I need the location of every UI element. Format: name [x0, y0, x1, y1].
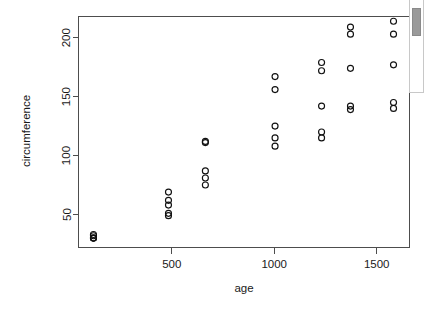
y-tick-label: 100 — [61, 146, 73, 165]
scatter-point — [347, 24, 353, 30]
scatter-plot: 50100150200 50010001500 age circumferenc… — [0, 0, 424, 311]
scatter-point — [202, 168, 208, 174]
scatter-point — [272, 135, 278, 141]
scatter-points-group — [90, 18, 396, 241]
scatter-point — [272, 123, 278, 129]
y-tick-label: 200 — [61, 28, 73, 47]
y-axis-tick-labels: 50100150200 — [61, 28, 73, 221]
x-axis-ticks — [172, 248, 377, 254]
x-tick-label: 1000 — [261, 258, 287, 270]
scatter-point — [202, 182, 208, 188]
scatter-point — [319, 135, 325, 141]
scatter-point — [319, 68, 325, 74]
x-axis-title: age — [234, 282, 253, 294]
scatter-point — [272, 143, 278, 149]
scatter-point — [391, 105, 397, 111]
y-tick-label: 150 — [61, 87, 73, 106]
x-axis-tick-labels: 50010001500 — [162, 258, 389, 270]
r-plot-device: 50100150200 50010001500 age circumferenc… — [0, 0, 424, 311]
plot-frame-box — [79, 17, 410, 248]
scatter-point — [272, 87, 278, 93]
scatter-point — [347, 31, 353, 37]
y-axis-ticks — [73, 38, 79, 215]
scrollbar-thumb[interactable] — [412, 8, 421, 36]
scatter-point — [272, 74, 278, 80]
scatter-point — [165, 189, 171, 195]
scatter-point — [391, 18, 397, 24]
scatter-point — [391, 62, 397, 68]
y-axis-title: circumference — [20, 95, 32, 167]
scatter-point — [319, 59, 325, 65]
scatter-point — [391, 100, 397, 106]
y-tick-label: 50 — [61, 208, 73, 221]
scatter-point — [347, 65, 353, 71]
x-tick-label: 500 — [162, 258, 181, 270]
scatter-point — [319, 103, 325, 109]
scatter-point — [202, 175, 208, 181]
x-tick-label: 1500 — [364, 258, 390, 270]
scatter-point — [391, 31, 397, 37]
scatter-point — [319, 129, 325, 135]
window-scrollbar[interactable] — [409, 0, 424, 93]
